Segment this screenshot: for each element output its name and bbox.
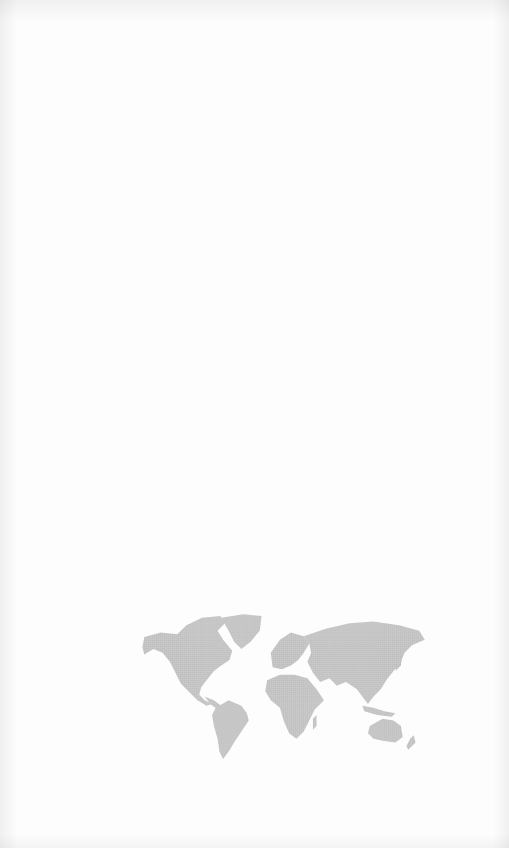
- asia-shape: [304, 622, 425, 705]
- africa-shape: [265, 675, 324, 739]
- europe-shape: [271, 633, 310, 670]
- world-map-graphic: [127, 605, 442, 770]
- southeast-asia-islands-shape: [362, 706, 395, 717]
- new-zealand-shape: [406, 735, 415, 750]
- australia-shape: [368, 719, 403, 743]
- south-america-shape: [212, 700, 249, 759]
- world-map: [127, 605, 442, 770]
- north-america-shape: [142, 616, 232, 706]
- greenland-shape: [221, 614, 261, 649]
- madagascar-shape: [313, 715, 317, 730]
- blank-page-background: [0, 0, 509, 848]
